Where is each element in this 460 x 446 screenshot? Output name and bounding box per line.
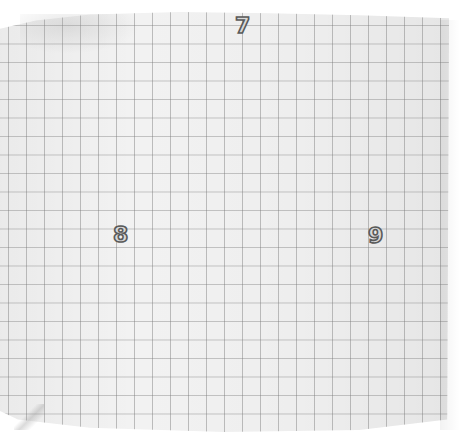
photo: 7 8 9 — [0, 0, 460, 446]
numeral-label-top: 7 — [235, 15, 250, 37]
numeral-label-left: 8 — [113, 224, 128, 246]
graph-paper-sheet — [0, 12, 449, 432]
numeral-label-right: 9 — [368, 225, 383, 247]
